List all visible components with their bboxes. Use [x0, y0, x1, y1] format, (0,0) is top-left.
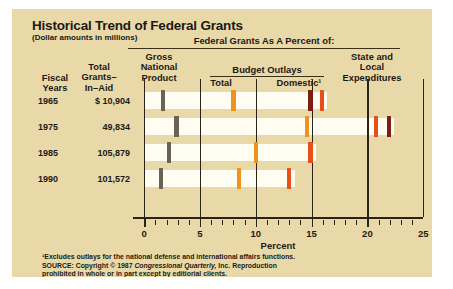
x-tick-label: 5: [197, 228, 202, 239]
x-tick-minor: [222, 220, 223, 225]
header-tick: [367, 79, 368, 88]
x-tick-minor: [412, 220, 413, 225]
x-tick-major: [256, 219, 257, 227]
x-tick-minor: [155, 220, 156, 225]
x-tick-minor: [189, 220, 190, 225]
grants-line3: In–Aid: [85, 83, 113, 93]
x-tick-minor: [267, 220, 268, 225]
fiscal-years-line2: Years: [43, 83, 68, 93]
row-value-grants-in-aid: $ 10,904: [68, 96, 130, 106]
gnp-line2: National: [141, 62, 178, 72]
state-local-line1: State and: [351, 52, 393, 62]
row-value-grants-in-aid: 49,834: [68, 122, 130, 132]
column-header-outlays-total: Total: [198, 78, 244, 88]
x-tick-minor: [300, 220, 301, 225]
gnp-line3: Product: [141, 73, 176, 83]
bar-marker-gnp: [159, 168, 163, 189]
source-b: Congressional Quarterly,: [134, 262, 216, 269]
x-tick-minor: [167, 220, 168, 225]
banner-federal-grants-percent: Federal Grants As A Percent of:: [128, 35, 400, 46]
row-value-grants-in-aid: 105,879: [68, 148, 130, 158]
bar-marker-gnp: [167, 142, 171, 163]
header-tick: [423, 79, 424, 88]
row-band: [144, 170, 295, 187]
bar-marker-gnp: [161, 90, 165, 111]
x-tick-label: 10: [251, 228, 262, 239]
gridline: [367, 88, 368, 217]
x-tick-label: 25: [418, 228, 429, 239]
bar-marker-outlays-total: [305, 116, 309, 137]
bar-marker-outlays-domestic: [308, 90, 312, 111]
banner-rule: [128, 48, 400, 49]
x-tick-minor: [323, 220, 324, 225]
grants-line1: Total: [88, 62, 110, 72]
x-tick-minor: [289, 220, 290, 225]
footnote-1: ¹Excludes outlays for the national defen…: [42, 253, 295, 262]
x-tick-minor: [233, 220, 234, 225]
x-tick-minor: [334, 220, 335, 225]
x-tick-minor: [345, 220, 346, 225]
column-header-gross-national-product: Gross National Product: [128, 52, 190, 83]
x-tick-label: 15: [306, 228, 317, 239]
bar-marker-state-local: [374, 116, 378, 137]
gridline: [200, 88, 201, 217]
x-axis-title: Percent: [133, 240, 423, 251]
chart-subtitle: (Dollar amounts in millions): [32, 33, 137, 42]
source-a: SOURCE: Copyright © 1987: [42, 262, 134, 269]
chart-card: Historical Trend of Federal Grants (Doll…: [12, 9, 432, 277]
x-tick-major: [200, 219, 201, 227]
x-tick-label: 20: [362, 228, 373, 239]
row-label-year: 1975: [38, 122, 72, 132]
x-tick-major: [312, 219, 313, 227]
header-tick: [200, 79, 201, 88]
column-header-total-grants-in-aid: Total Grants– In–Aid: [70, 62, 128, 93]
header-tick: [312, 79, 313, 88]
gnp-line1: Gross: [146, 52, 173, 62]
fiscal-years-line1: Fiscal: [42, 73, 68, 83]
state-local-line2: Local: [360, 62, 384, 72]
row-band: [144, 92, 327, 109]
bar-marker-state-local: [287, 168, 291, 189]
row-label-year: 1990: [38, 174, 72, 184]
row-band: [144, 118, 394, 135]
x-tick-label: 0: [142, 228, 147, 239]
bar-marker-outlays-total: [254, 142, 258, 163]
source-c: Inc. Reproduction: [216, 262, 277, 269]
x-tick-minor: [401, 220, 402, 225]
row-label-year: 1985: [38, 148, 72, 158]
outlays-domestic-label: Domestic¹: [277, 78, 322, 88]
x-tick-minor: [211, 220, 212, 225]
x-axis-line: [133, 217, 423, 219]
x-tick-minor: [390, 220, 391, 225]
gridline: [423, 88, 424, 217]
header-tick: [144, 79, 145, 88]
x-tick-major: [367, 219, 368, 227]
column-header-outlays-domestic: Domestic¹: [268, 78, 330, 88]
bar-marker-outlays-domestic: [387, 116, 391, 137]
state-local-line3: Expenditures: [343, 73, 402, 83]
x-tick-minor: [178, 220, 179, 225]
grants-line2: Grants–: [81, 72, 116, 82]
x-tick-minor: [278, 220, 279, 225]
bar-marker-gnp: [174, 116, 178, 137]
x-tick-minor: [356, 220, 357, 225]
bar-marker-state-local: [320, 90, 324, 111]
bar-marker-outlays-total: [231, 90, 235, 111]
header-tick: [256, 79, 257, 88]
column-header-state-local-expenditures: State and Local Expenditures: [324, 52, 420, 83]
x-tick-minor: [245, 220, 246, 225]
x-tick-minor: [379, 220, 380, 225]
source-line-2: prohibited in whole or in part except by…: [42, 270, 295, 277]
bar-marker-outlays-total: [237, 168, 241, 189]
column-group-budget-outlays: Budget Outlays: [210, 64, 324, 75]
page-title: Historical Trend of Federal Grants: [32, 18, 243, 33]
footnotes: ¹Excludes outlays for the national defen…: [42, 253, 295, 277]
row-value-grants-in-aid: 101,572: [68, 174, 130, 184]
gridline: [144, 88, 145, 217]
source-line-1: SOURCE: Copyright © 1987 Congressional Q…: [42, 262, 295, 271]
bar-marker-state-local: [308, 142, 312, 163]
plot-area: [133, 88, 423, 217]
x-tick-major: [144, 219, 145, 227]
outlays-total-label: Total: [210, 78, 232, 88]
row-label-year: 1965: [38, 96, 72, 106]
